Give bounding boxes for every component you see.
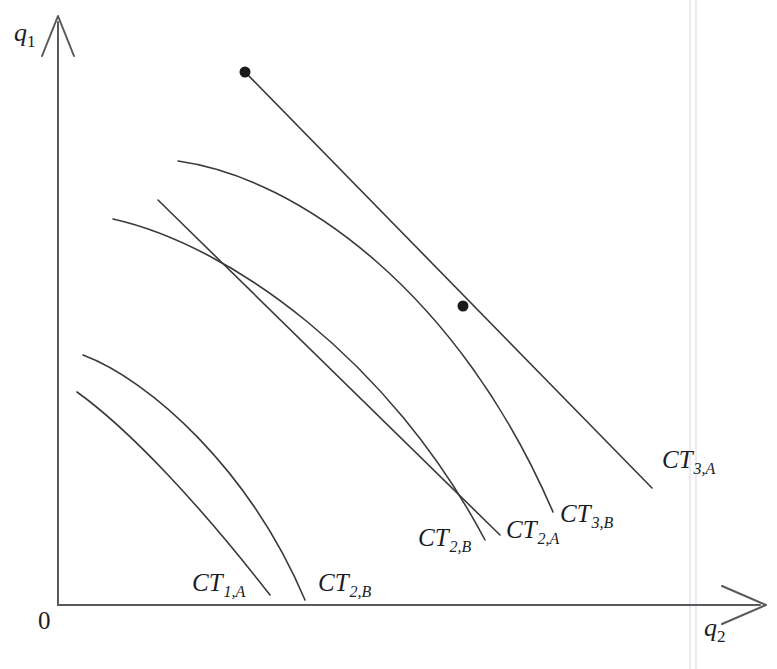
- label-ct-3-b: CT3,B: [560, 501, 613, 531]
- curve-ct-2-b-lower: [83, 355, 305, 600]
- label-ct-2-b-lower-sub: 2,B: [349, 583, 371, 600]
- curve-ct-3-b: [178, 161, 553, 512]
- figure-canvas: q1 q2 0 CT1,A CT2,B CT2,B CT2,A CT3,B CT…: [0, 0, 777, 669]
- tangency-point-3-dot: [240, 67, 251, 78]
- label-ct-1-a: CT1,A: [192, 570, 245, 600]
- x-axis-label: q2: [704, 615, 726, 645]
- label-ct-2-b-upper: CT2,B: [418, 525, 471, 555]
- label-ct-3-a-sub: 3,A: [693, 460, 715, 477]
- diagram-svg: [0, 0, 777, 669]
- tangency-point-2-dot: [458, 301, 469, 312]
- label-ct-3-a-main: CT: [662, 446, 693, 473]
- label-ct-2-a-main: CT: [506, 516, 537, 543]
- origin-label: 0: [38, 608, 51, 633]
- label-ct-2-b-upper-main: CT: [418, 524, 449, 551]
- label-ct-3-a: CT3,A: [662, 447, 715, 477]
- curve-ct-1-a: [77, 392, 270, 595]
- label-ct-2-b-lower: CT2,B: [318, 570, 371, 600]
- label-ct-2-a-sub: 2,A: [537, 530, 559, 547]
- line-ct-3-a: [245, 72, 652, 488]
- y-axis-label: q1: [14, 20, 36, 50]
- x-axis-label-main: q: [704, 613, 717, 642]
- x-axis-label-sub: 2: [717, 627, 726, 646]
- label-ct-3-b-sub: 3,B: [591, 514, 613, 531]
- y-axis-label-main: q: [14, 18, 27, 47]
- label-ct-1-a-main: CT: [192, 569, 223, 596]
- label-ct-2-a: CT2,A: [506, 517, 559, 547]
- curve-ct-2-b-upper: [113, 219, 485, 540]
- label-ct-1-a-sub: 1,A: [223, 583, 245, 600]
- y-axis-label-sub: 1: [27, 32, 36, 51]
- label-ct-2-b-upper-sub: 2,B: [449, 538, 471, 555]
- line-ct-2-a: [158, 200, 500, 535]
- label-ct-2-b-lower-main: CT: [318, 569, 349, 596]
- label-ct-3-b-main: CT: [560, 500, 591, 527]
